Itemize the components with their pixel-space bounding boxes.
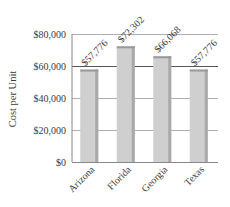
- y-tick-label: $40,000: [34, 93, 67, 104]
- bar-chart: $0$20,000$40,000$60,000$80,000 ArizonaFl…: [0, 0, 230, 207]
- y-axis-label: Cost per Unit: [7, 71, 18, 128]
- data-labels: $57,776$72,302$66,068$57,776: [79, 14, 219, 68]
- bar-arizona: [80, 70, 98, 162]
- x-tick-labels: ArizonaFloridaGeorgiaTexas: [66, 163, 206, 194]
- bars: [80, 46, 208, 162]
- y-tick-label: $0: [56, 157, 66, 168]
- data-label: $66,068: [152, 24, 183, 55]
- data-label: $57,776: [79, 37, 110, 68]
- y-tick-label: $80,000: [34, 29, 67, 40]
- bar-florida: [117, 46, 135, 162]
- x-tick-label: Georgia: [139, 163, 170, 194]
- x-tick-label: Arizona: [66, 163, 97, 194]
- y-tick-label: $20,000: [34, 125, 67, 136]
- y-tick-label: $60,000: [34, 61, 67, 72]
- data-label: $57,776: [188, 37, 219, 68]
- bar-georgia: [153, 56, 171, 162]
- bar-texas: [190, 70, 208, 162]
- data-label: $72,302: [115, 14, 146, 45]
- x-tick-label: Texas: [182, 164, 206, 188]
- x-tick-label: Florida: [105, 163, 134, 192]
- y-tick-labels: $0$20,000$40,000$60,000$80,000: [34, 29, 67, 168]
